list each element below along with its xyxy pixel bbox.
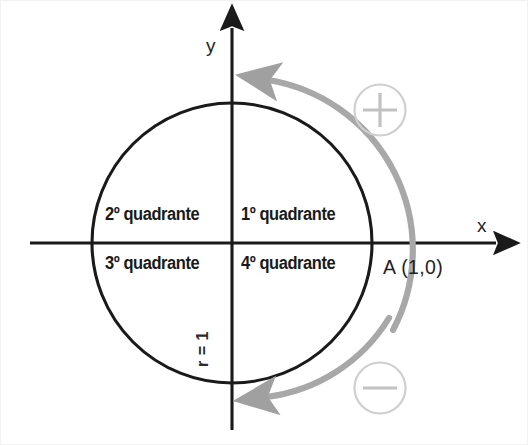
- positive-sign-badge: [355, 85, 406, 136]
- quadrant-label-2: 2º quadrante: [105, 206, 199, 224]
- negative-direction-arrow: [266, 318, 389, 397]
- x-axis-label: x: [477, 216, 487, 235]
- negative-sign-badge: [355, 363, 406, 414]
- quadrant-label-1: 1º quadrante: [241, 206, 335, 224]
- quadrant-label-3: 3º quadrante: [105, 255, 199, 273]
- radius-label: r = 1: [195, 331, 211, 367]
- figure-canvas: y x 2º quadrante 1º quadrante 3º quadran…: [0, 0, 528, 445]
- y-axis-label: y: [206, 36, 216, 55]
- quadrant-label-4: 4º quadrante: [241, 255, 335, 273]
- point-a-label: A (1,0): [383, 258, 443, 278]
